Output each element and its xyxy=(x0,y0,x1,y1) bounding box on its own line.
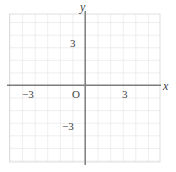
x-tick-label-positive-3: 3 xyxy=(122,89,128,100)
y-axis-label: y xyxy=(80,1,85,13)
x-tick-label-negative-3: −3 xyxy=(22,89,34,100)
y-tick-label-negative-3: −3 xyxy=(62,121,74,132)
x-axis-label: x xyxy=(163,80,168,92)
origin-label: O xyxy=(72,89,80,100)
coordinate-plane-svg xyxy=(0,0,176,172)
y-tick-label-positive-3: 3 xyxy=(70,38,76,49)
coordinate-grid-figure: y x O 3 −3 3 −3 xyxy=(0,0,176,172)
